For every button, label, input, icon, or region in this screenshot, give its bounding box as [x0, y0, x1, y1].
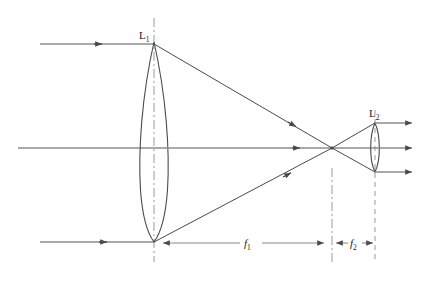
diagram-canvas: f1 f2 L1 L2	[0, 0, 434, 289]
output-rays	[375, 123, 412, 172]
center-lines	[154, 18, 375, 262]
converging-rays	[154, 44, 332, 242]
f1-label: f1	[244, 237, 251, 252]
f1-dimension: f1	[163, 237, 324, 252]
focal-point-marker	[330, 146, 333, 149]
optics-ray-diagram: f1 f2 L1 L2	[0, 0, 434, 289]
lens-2-label-subscript: 2	[376, 113, 380, 122]
lens-2-label: L2	[369, 107, 380, 122]
converging-ray-lower	[154, 148, 332, 242]
f2-label: f2	[350, 237, 357, 252]
lens-1-label: L1	[139, 29, 150, 44]
converging-ray-upper-arrow	[288, 122, 296, 127]
diverging-ray-down	[332, 148, 375, 172]
diverging-ray-up	[332, 123, 375, 148]
lens-1-label-subscript: 1	[146, 35, 150, 44]
f2-label-subscript: 2	[353, 243, 357, 252]
f2-dimension: f2	[336, 237, 373, 252]
diverging-rays	[332, 123, 375, 172]
converging-ray-upper	[154, 44, 332, 148]
input-rays	[40, 44, 154, 242]
f1-label-subscript: 1	[247, 243, 251, 252]
